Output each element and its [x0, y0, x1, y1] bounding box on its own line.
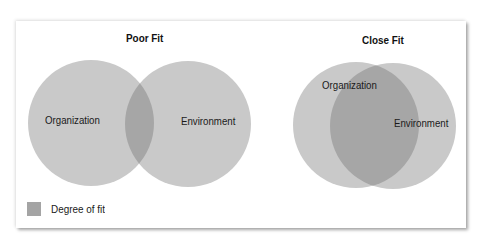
poor-fit-environment-label: Environment — [181, 115, 235, 127]
legend: Degree of fit — [27, 202, 111, 216]
degree-of-fit-swatch-icon — [27, 202, 41, 216]
legend-label: Degree of fit — [51, 203, 105, 215]
close-fit-environment-label: Environment — [394, 117, 448, 129]
poor-fit-organization-label: Organization — [45, 114, 100, 126]
close-fit-organization-label: Organization — [322, 79, 377, 91]
poor-fit-title: Poor Fit — [126, 32, 163, 44]
close-fit-title: Close Fit — [362, 34, 404, 46]
